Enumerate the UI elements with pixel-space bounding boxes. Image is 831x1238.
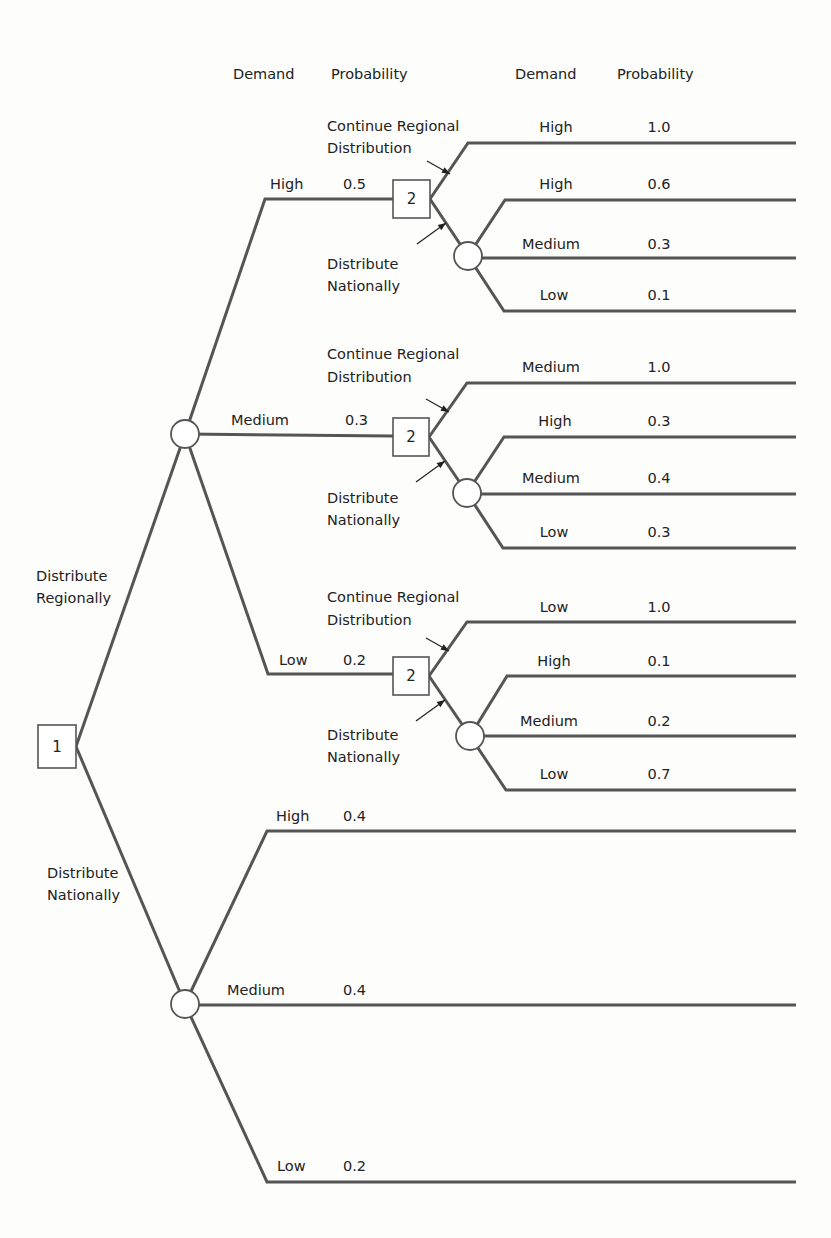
distribute-nationally-label-line1: Distribute: [47, 862, 118, 884]
decision-node-number: 1: [52, 738, 62, 756]
decision-node-number: 2: [407, 190, 417, 208]
outcome-a-continue-demand: High: [539, 116, 572, 138]
outcome-a-national-medium-probability: 0.3: [647, 233, 670, 255]
branch-regional-high: [185, 199, 393, 434]
header-probability-2: Probability: [617, 63, 694, 85]
branch-outcome-low: [467, 493, 796, 548]
outcome-c-national-low-demand: Low: [540, 763, 569, 785]
branch-regional-medium: [185, 434, 393, 436]
outcome-b-national-low-demand: Low: [540, 521, 569, 543]
header-demand-1: Demand: [233, 63, 295, 85]
chance-node-circle-icon: [454, 242, 482, 270]
arrowhead-icon: [437, 700, 445, 707]
outcome-b-national-high-probability: 0.3: [647, 410, 670, 432]
continue-regional-label-b1: Continue Regional: [327, 343, 459, 365]
outcome-b-national-high-demand: High: [538, 410, 571, 432]
distribute-nationally-label-line2: Nationally: [47, 884, 120, 906]
chance-node-circle-icon: [171, 420, 199, 448]
decision-tree: [0, 0, 831, 1238]
national-high-probability: 0.4: [343, 805, 366, 827]
outcome-a-national-low-probability: 0.1: [647, 284, 670, 306]
distribute-regionally-label-line2: Regionally: [36, 587, 111, 609]
branch-regional-low: [185, 434, 393, 674]
continue-regional-label-a1: Continue Regional: [327, 115, 459, 137]
decision-node-number: 2: [406, 667, 416, 685]
distribute-nationally-label-b1: Distribute: [327, 487, 398, 509]
outcome-b-national-medium-probability: 0.4: [647, 467, 670, 489]
outcome-c-national-high-probability: 0.1: [647, 650, 670, 672]
national-low-demand: Low: [277, 1155, 306, 1177]
distribute-nationally-label-c2: Nationally: [327, 746, 400, 768]
regional-high-probability: 0.5: [343, 173, 366, 195]
outcome-a-national-low-demand: Low: [540, 284, 569, 306]
regional-medium-demand: Medium: [231, 409, 289, 431]
continue-regional-label-c2: Distribution: [327, 609, 412, 631]
outcome-c-continue-probability: 1.0: [647, 596, 670, 618]
branch-outcome-low: [468, 256, 796, 311]
outcome-a-national-high-demand: High: [539, 173, 572, 195]
national-low-probability: 0.2: [343, 1155, 366, 1177]
branch-outcome-high: [467, 437, 796, 493]
arrowhead-icon: [437, 461, 445, 468]
arrowhead-icon: [438, 223, 446, 230]
outcome-c-continue-demand: Low: [540, 596, 569, 618]
branch-continue-regional: [429, 622, 796, 676]
header-demand-2: Demand: [515, 63, 577, 85]
continue-regional-label-a2: Distribution: [327, 137, 412, 159]
national-high-demand: High: [276, 805, 309, 827]
branch-continue-regional: [430, 143, 796, 199]
outcome-c-national-low-probability: 0.7: [647, 763, 670, 785]
outcome-a-national-medium-demand: Medium: [522, 233, 580, 255]
distribute-nationally-label-a1: Distribute: [327, 253, 398, 275]
regional-medium-probability: 0.3: [345, 409, 368, 431]
outcome-a-continue-probability: 1.0: [647, 116, 670, 138]
outcome-c-national-medium-probability: 0.2: [647, 710, 670, 732]
branch-outcome-high: [468, 200, 796, 256]
continue-regional-label-b2: Distribution: [327, 366, 412, 388]
branch-outcome-low: [470, 736, 796, 790]
outcome-b-national-low-probability: 0.3: [647, 521, 670, 543]
chance-node-circle-icon: [456, 722, 484, 750]
chance-node-circle-icon: [453, 479, 481, 507]
distribute-nationally-label-c1: Distribute: [327, 724, 398, 746]
chance-node-circle-icon: [171, 990, 199, 1018]
branch-continue-regional: [429, 383, 796, 437]
outcome-a-national-high-probability: 0.6: [647, 173, 670, 195]
outcome-b-continue-probability: 1.0: [647, 356, 670, 378]
outcome-b-national-medium-demand: Medium: [522, 467, 580, 489]
regional-high-demand: High: [270, 173, 303, 195]
national-medium-probability: 0.4: [343, 979, 366, 1001]
outcome-b-continue-demand: Medium: [522, 356, 580, 378]
distribute-nationally-label-b2: Nationally: [327, 509, 400, 531]
header-probability-1: Probability: [331, 63, 408, 85]
tree-branches: [76, 143, 796, 1182]
continue-regional-label-c1: Continue Regional: [327, 586, 459, 608]
outcome-c-national-medium-demand: Medium: [520, 710, 578, 732]
distribute-regionally-label-line1: Distribute: [36, 565, 107, 587]
distribute-nationally-label-a2: Nationally: [327, 275, 400, 297]
branch-outcome-high: [470, 676, 796, 736]
national-medium-demand: Medium: [227, 979, 285, 1001]
outcome-c-national-high-demand: High: [537, 650, 570, 672]
regional-low-probability: 0.2: [343, 649, 366, 671]
decision-node-number: 2: [406, 428, 416, 446]
regional-low-demand: Low: [279, 649, 308, 671]
